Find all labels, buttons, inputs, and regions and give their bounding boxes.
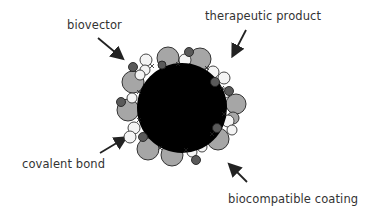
covalent-bond-label: covalent bond xyxy=(22,157,105,171)
therapeutic-product-label: therapeutic product xyxy=(205,9,321,23)
nanoparticle-core xyxy=(137,63,227,153)
covalent-bond-arrow xyxy=(100,138,125,153)
nanoparticle-illustration xyxy=(0,0,385,214)
nanoparticle-diagram: biovector therapeutic product covalent b… xyxy=(0,0,385,214)
biocompatible-coating-label: biocompatible coating xyxy=(228,192,358,206)
therapeutic-product-arrow xyxy=(233,30,246,55)
biovector-arrow xyxy=(98,38,122,58)
biocompatible-coating-arrow xyxy=(230,165,247,182)
biovector-label: biovector xyxy=(67,18,122,32)
